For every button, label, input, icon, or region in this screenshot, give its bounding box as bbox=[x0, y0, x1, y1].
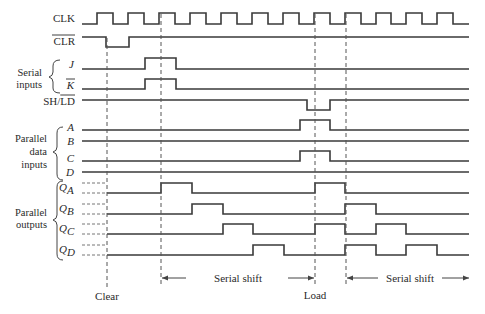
marker-label-load: Load bbox=[304, 289, 327, 301]
label-c: C bbox=[67, 152, 75, 164]
svg-text:D: D bbox=[66, 246, 75, 258]
waveform-a bbox=[82, 120, 469, 130]
arrow-right-icon bbox=[308, 276, 314, 281]
arrow-right-icon bbox=[463, 276, 469, 281]
label-sh: SH/ bbox=[43, 95, 61, 107]
svg-text:inputs: inputs bbox=[16, 79, 42, 90]
svg-text:Q: Q bbox=[59, 243, 67, 255]
marker-label-clear: Clear bbox=[95, 290, 119, 302]
label-qa: Q A bbox=[59, 181, 74, 196]
svg-text:Q: Q bbox=[59, 202, 67, 214]
svg-text:Parallel: Parallel bbox=[15, 207, 47, 218]
label-b: B bbox=[67, 135, 74, 147]
signal-labels: CLK CLR J K SH/ LD A B C D Q A Q B Q C Q… bbox=[43, 12, 75, 258]
svg-text:outputs: outputs bbox=[16, 219, 47, 230]
svg-text:C: C bbox=[67, 225, 75, 237]
caption-clipped bbox=[18, 308, 378, 314]
arrow-left-icon bbox=[162, 276, 168, 281]
svg-text:Q: Q bbox=[59, 222, 67, 234]
event-markers bbox=[107, 14, 346, 290]
group-serial-inputs: Serial inputs bbox=[16, 60, 60, 93]
waveform-clk bbox=[82, 13, 469, 24]
brace-icon bbox=[53, 127, 63, 180]
span-serial-shift-1: Serial shift bbox=[162, 272, 314, 284]
label-j: J bbox=[69, 58, 75, 70]
label-d: D bbox=[65, 166, 74, 178]
unknown-state-marks bbox=[82, 183, 107, 255]
svg-text:B: B bbox=[67, 205, 74, 217]
waveform-j bbox=[82, 58, 469, 69]
arrow-left-icon bbox=[347, 276, 353, 281]
label-clr: CLR bbox=[54, 35, 76, 47]
waveform-clr bbox=[82, 37, 469, 47]
svg-text:Serial shift: Serial shift bbox=[214, 272, 262, 284]
group-parallel-outputs: Parallel outputs bbox=[15, 181, 63, 260]
svg-text:data: data bbox=[30, 146, 48, 157]
label-k: K bbox=[66, 79, 75, 91]
waveform-k bbox=[82, 79, 469, 89]
span-serial-shift-2: Serial shift bbox=[347, 272, 469, 284]
svg-text:A: A bbox=[66, 184, 74, 196]
waveforms bbox=[82, 13, 469, 255]
svg-text:Q: Q bbox=[59, 181, 67, 193]
waveform-c bbox=[82, 151, 469, 161]
label-qc: Q C bbox=[59, 222, 75, 237]
label-clk: CLK bbox=[53, 12, 75, 24]
waveform-sh-ld bbox=[82, 100, 469, 110]
label-ld: LD bbox=[60, 95, 75, 107]
svg-text:Parallel: Parallel bbox=[15, 133, 47, 144]
label-qb: Q B bbox=[59, 202, 74, 217]
svg-text:inputs: inputs bbox=[21, 159, 47, 170]
brace-icon bbox=[49, 60, 60, 93]
group-parallel-data-inputs: Parallel data inputs bbox=[15, 127, 63, 180]
label-a: A bbox=[66, 121, 74, 133]
svg-text:Serial: Serial bbox=[18, 67, 43, 78]
label-qd: Q D bbox=[59, 243, 75, 258]
svg-text:Serial shift: Serial shift bbox=[386, 272, 434, 284]
timing-diagram: CLK CLR J K SH/ LD A B C D Q A Q B Q C Q… bbox=[0, 0, 485, 314]
